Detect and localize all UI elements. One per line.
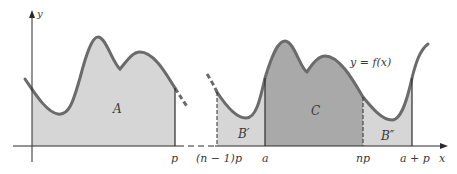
curve-right-dashed [207,74,217,92]
function-label: y = f(x) [349,56,391,69]
x-axis-label: x [439,152,446,165]
tick-label-n-minus-1-p: (n − 1)p [196,152,242,165]
curve-left-dashed [175,88,188,108]
tick-label-np: np [356,152,370,165]
region-b-double-prime-label: B″ [380,129,395,143]
tick-label-p: p [171,152,178,165]
region-c-fill [265,41,363,146]
y-axis-label: y [36,8,43,19]
tick-label-a: a [262,152,269,165]
x-axis-arrow-icon [440,143,448,149]
region-a-fill [32,37,175,146]
region-c-label: C [311,104,320,118]
region-b-prime-label: B′ [237,127,250,141]
tick-label-a-plus-p: a + p [400,152,430,165]
region-a-label: A [112,102,122,116]
periodic-integral-diagram: y x y = f(x) A B′ C B″ p (n − 1)p a np a… [0,0,457,174]
y-axis-arrow-icon [29,10,35,18]
